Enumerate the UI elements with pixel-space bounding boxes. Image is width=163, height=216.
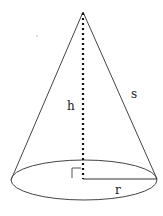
stray-dot bbox=[36, 35, 38, 37]
cone-left-edge bbox=[11, 12, 83, 180]
slant-label: s bbox=[131, 87, 137, 101]
cone-svg: h s r bbox=[0, 0, 163, 216]
cone-slant-edge bbox=[83, 12, 157, 179]
right-angle-mark bbox=[72, 168, 81, 178]
radius-label: r bbox=[115, 183, 121, 197]
cone-diagram: h s r bbox=[0, 0, 163, 216]
height-label: h bbox=[67, 99, 75, 113]
cone-base-ellipse bbox=[11, 160, 157, 200]
